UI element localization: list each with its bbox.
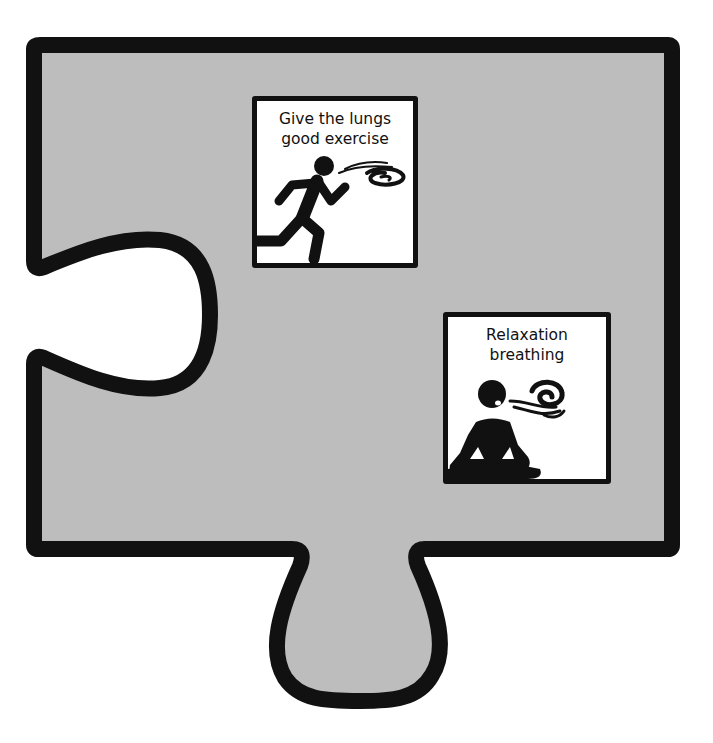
card-relaxation-breathing: Relaxation breathing: [443, 312, 611, 484]
puzzle-diagram: Give the lungs good exercise Relaxa: [0, 0, 713, 743]
breath-swirl-icon: [510, 382, 564, 417]
meditating-person-breath-icon: [448, 317, 606, 479]
running-person-breath-icon: [257, 101, 413, 263]
card-lungs-exercise: Give the lungs good exercise: [252, 96, 418, 268]
breath-swirl-icon: [339, 162, 404, 184]
